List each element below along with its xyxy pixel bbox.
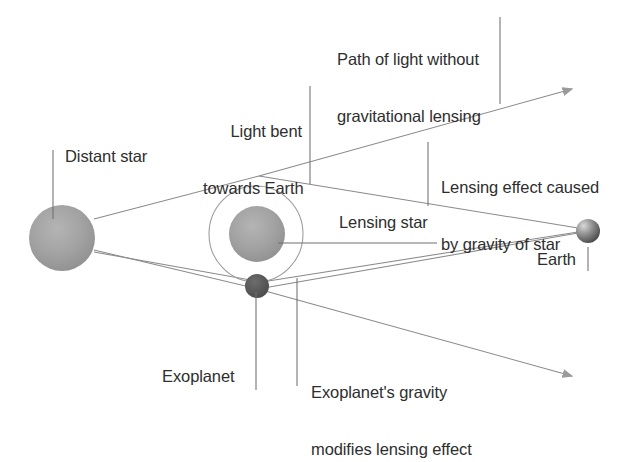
distant-star-body [29,205,95,271]
label-path-without-lensing-line1: Path of light without [337,50,481,69]
label-exoplanet-gravity-line1: Exoplanet's gravity [311,383,472,402]
label-light-bent-line1: Light bent [203,122,302,141]
label-lensing-effect: Lensing effect caused by gravity of star [441,140,599,292]
label-light-bent-line2: towards Earth [203,179,302,198]
label-lensing-star: Lensing star [339,213,428,232]
label-distant-star: Distant star [65,147,147,166]
ray-lower-incoming-a [94,250,258,289]
exoplanet-body [245,274,269,298]
label-exoplanet: Exoplanet [162,367,235,386]
label-exoplanet-gravity: Exoplanet's gravity modifies lensing eff… [311,345,472,462]
label-exoplanet-gravity-line2: modifies lensing effect [311,440,472,459]
label-light-bent: Light bent towards Earth [203,84,302,236]
label-earth: Earth [537,250,576,269]
label-path-without-lensing-line2: gravitational lensing [337,107,481,126]
label-lensing-effect-line1: Lensing effect caused [441,178,599,197]
